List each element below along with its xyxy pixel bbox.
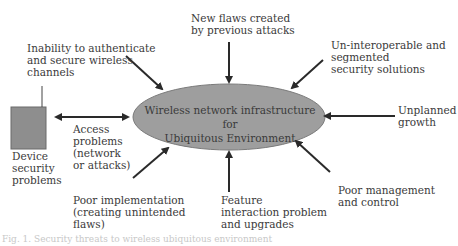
label-new-flaws: New flaws created by previous attacks xyxy=(191,12,295,36)
label-feature: Feature interaction problem and upgrades xyxy=(221,194,327,230)
label-inability: Inability to authenticate and secure wir… xyxy=(27,42,155,78)
label-uninteroperable: Un-interoperable and segmented security … xyxy=(331,39,446,75)
label-poor-implementation: Poor implementation (creating unintended… xyxy=(73,194,185,230)
device-box xyxy=(11,107,46,149)
arrow-poor-impl xyxy=(133,148,168,178)
label-unplanned: Unplanned growth xyxy=(398,104,456,128)
center-label-line2: Ubiquitous Environment xyxy=(140,131,320,145)
center-label-line1: Wireless network infrastructure for xyxy=(140,103,320,131)
arrow-poor-mgmt xyxy=(296,141,330,172)
label-access: Access problems (network or attacks) xyxy=(73,123,130,171)
diagram-canvas: Wireless network infrastructure for Ubiq… xyxy=(0,0,458,246)
center-label: Wireless network infrastructure for Ubiq… xyxy=(140,103,320,145)
arrow-uninteroperable xyxy=(292,60,323,88)
label-device: Device security problems xyxy=(12,150,62,186)
figure-caption: Fig. 1. Security threats to wireless ubi… xyxy=(2,234,272,244)
label-poor-management: Poor management and control xyxy=(338,184,435,208)
